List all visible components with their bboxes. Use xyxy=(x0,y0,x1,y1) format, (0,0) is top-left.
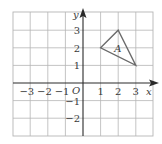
y-tick-label: −1 xyxy=(65,96,80,107)
x-tick-label: −2 xyxy=(37,86,52,97)
tick-labels: −3−2−1123321−1−2 xyxy=(19,25,139,124)
y-tick-label: 2 xyxy=(74,43,80,54)
shape-label: A xyxy=(113,43,121,54)
x-tick-label: 3 xyxy=(133,86,139,97)
x-tick-label: 1 xyxy=(97,86,103,97)
axes xyxy=(13,8,159,136)
x-tick-label: −3 xyxy=(19,86,34,97)
y-axis-label: y xyxy=(72,9,79,20)
origin-label: O xyxy=(72,85,80,96)
coordinate-grid-diagram: −3−2−1123321−1−2 x y O A xyxy=(0,0,162,144)
y-tick-label: −2 xyxy=(65,113,80,124)
x-axis-label: x xyxy=(146,86,152,97)
x-tick-label: 2 xyxy=(115,86,121,97)
y-tick-label: 3 xyxy=(74,25,80,36)
y-tick-label: 1 xyxy=(74,60,80,71)
